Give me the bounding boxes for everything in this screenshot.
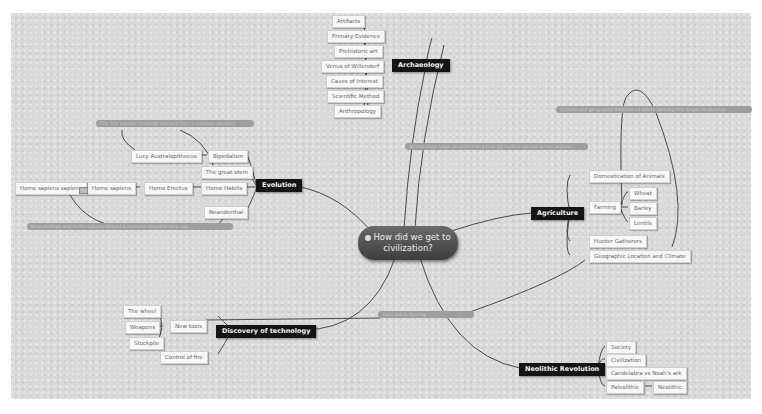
central-topic-line1: How did we get to bbox=[373, 232, 450, 242]
subtopic-prehistoric-art[interactable]: Prehistoric art bbox=[334, 45, 383, 58]
relationship-label[interactable]: Climate and geography determined where f… bbox=[556, 106, 752, 113]
subtopic-candelabra-vs-noahs-ark[interactable]: Candelabra vs Noah's ark bbox=[606, 367, 687, 380]
relationship-label[interactable]: Neanderthals and Homo sapiens shared a c… bbox=[27, 223, 233, 230]
relationship-label[interactable]: Tools led to farming bbox=[378, 311, 474, 318]
flag-icon bbox=[79, 187, 88, 194]
subtopic-primary-evidence[interactable]: Primary Evidence bbox=[327, 30, 385, 43]
subtopic-new-tools[interactable]: New tools bbox=[170, 320, 207, 333]
central-topic[interactable]: How did we get to civilization? bbox=[358, 226, 458, 260]
subtopic-neolithic[interactable]: Neolithic bbox=[653, 381, 687, 394]
subtopic-caves-of-interest[interactable]: Caves of Interest bbox=[326, 75, 383, 88]
subtopic-lentils[interactable]: Lentils bbox=[629, 217, 657, 230]
subtopic-lucy-australopithecus[interactable]: Lucy Australopithecus bbox=[131, 150, 202, 163]
subtopic-weapons[interactable]: Weapons bbox=[125, 321, 160, 334]
subtopic-farming[interactable]: Farming bbox=[589, 201, 621, 214]
subtopic-control-of-fire[interactable]: Control of fire bbox=[160, 351, 208, 364]
topic-archaeology[interactable]: Archaeology bbox=[392, 59, 450, 72]
subtopic-neanderthal[interactable]: Neanderthal bbox=[204, 206, 248, 219]
topic-neolithic-revolution[interactable]: Neolithic Revolution bbox=[519, 363, 605, 376]
subtopic-great-stem[interactable]: The great stem bbox=[201, 166, 253, 179]
topic-evolution[interactable]: Evolution bbox=[256, 179, 302, 192]
subtopic-barley[interactable]: Barley bbox=[629, 202, 657, 215]
subtopic-civilization[interactable]: Civilization bbox=[606, 354, 646, 367]
subtopic-hunter-gatherers[interactable]: Hunter Gatherers bbox=[589, 235, 647, 248]
relationship-label[interactable]: Archaeology helps us understand how agri… bbox=[405, 143, 588, 150]
subtopic-homo-sapiens[interactable]: Homo sapiens bbox=[87, 182, 136, 195]
topic-agriculture[interactable]: Agriculture bbox=[531, 207, 584, 220]
globe-icon bbox=[365, 235, 371, 241]
subtopic-paleolithic[interactable]: Paleolithic bbox=[606, 381, 644, 394]
subtopic-anthropology[interactable]: Anthropology bbox=[334, 105, 381, 118]
topic-discovery-of-technology[interactable]: Discovery of technology bbox=[216, 325, 316, 338]
central-topic-line2: civilization? bbox=[383, 243, 433, 253]
subtopic-wheat[interactable]: Wheat bbox=[629, 187, 657, 200]
subtopic-homo-sapiens-sapiens[interactable]: Homo sapiens sapiens bbox=[15, 182, 87, 195]
subtopic-geographic-location-climate[interactable]: Geographic Location and Climate bbox=[589, 250, 691, 263]
subtopic-homo-habilis[interactable]: Homo Habilis bbox=[201, 182, 247, 195]
relationship-label[interactable]: The first bipedal hominids evolved from … bbox=[96, 120, 254, 127]
subtopic-society[interactable]: Society bbox=[606, 341, 636, 354]
subtopic-bipedalism[interactable]: Bipedalism bbox=[208, 150, 248, 163]
subtopic-artifacts[interactable]: Artifacts bbox=[332, 15, 365, 28]
subtopic-the-wheel[interactable]: The wheel bbox=[123, 305, 161, 318]
subtopic-scientific-method[interactable]: Scientific Method bbox=[327, 90, 384, 103]
subtopic-venus-of-willendorf[interactable]: Venus of Willendorf bbox=[321, 60, 384, 73]
subtopic-domestication-of-animals[interactable]: Domestication of Animals bbox=[589, 170, 670, 183]
subtopic-homo-erectus[interactable]: Homo Erectus bbox=[144, 182, 193, 195]
subtopic-stockpile[interactable]: Stockpile bbox=[129, 337, 164, 350]
